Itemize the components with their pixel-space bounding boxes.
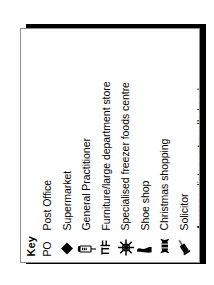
snowflake-icon [116, 230, 135, 256]
legend-label: Solicitor [179, 193, 191, 230]
legend-row: Shoe shop [136, 29, 156, 256]
legend-label: Christmas shopping [159, 138, 171, 230]
legend-row: Specialised freezer foods centre [116, 29, 136, 256]
christmas-cracker-icon [155, 230, 174, 256]
legend-label: Furniture/large department store [101, 81, 113, 230]
po-text-symbol-label: PO [42, 241, 53, 256]
legend-label: Shoe shop [140, 180, 152, 230]
filled-diamond-icon [58, 230, 77, 256]
table-and-chair-icon [97, 230, 116, 256]
legend-row: PO Post Office [38, 29, 58, 256]
syringe-icon [77, 230, 96, 256]
legend-row: Furniture/large department store [97, 29, 117, 256]
key-box: Key PO Post Office Supermarket [20, 28, 200, 263]
legend-label-multiline: Average distance travelled and average f… [196, 87, 201, 230]
legend-label-line1: Average distance travelled and [195, 88, 201, 231]
legend-page: Key PO Post Office Supermarket [0, 0, 214, 285]
po-text-symbol: PO [38, 230, 57, 256]
gavel-icon [175, 230, 194, 256]
boot-icon [136, 230, 155, 256]
legend-label: General Practitioner [81, 138, 93, 230]
legend-row: General Practitioner [77, 29, 97, 256]
rotated-content-plane: Key PO Post Office Supermarket [21, 29, 199, 262]
legend-row: Supermarket [58, 29, 78, 256]
legend: Key PO Post Office Supermarket [21, 29, 199, 262]
triangle-dot-icon [198, 230, 201, 256]
legend-label: Post Office [42, 179, 54, 230]
legend-label: Supermarket [62, 170, 74, 230]
legend-row: Christmas shopping [155, 29, 175, 256]
legend-row: Solicitor [175, 29, 195, 256]
key-title: Key [25, 29, 37, 256]
legend-label: Specialised freezer foods centre [120, 82, 132, 230]
legend-row: Average distance travelled and average f… [194, 29, 200, 256]
